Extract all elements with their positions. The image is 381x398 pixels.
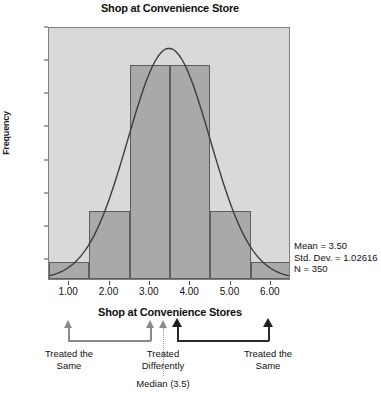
x-tick-label-1: 1.00	[48, 286, 88, 297]
median-label: Median (3.5)	[123, 378, 203, 389]
x-tick-label-4: 4.00	[169, 286, 209, 297]
annotation-label-left-line2: Same	[29, 360, 109, 372]
stat-n: N = 350	[294, 263, 378, 275]
bracket-stem-right-end	[268, 326, 270, 341]
annotation-label-right-line2: Same	[228, 360, 308, 372]
stat-std-dev: Std. Dev. = 1.02616	[294, 252, 378, 264]
chart-figure: Shop at Convenience Store Frequency 140 …	[0, 0, 381, 398]
x-tick-mark	[109, 281, 110, 285]
x-tick-mark	[270, 281, 271, 285]
normal-distribution-curve	[49, 28, 289, 279]
bracket-stem-right-start	[177, 326, 179, 341]
x-axis-title: Shop at Convenience Stores	[0, 306, 340, 318]
annotation-label-middle-line1: Treated	[123, 348, 203, 360]
stat-mean: Mean = 3.50	[294, 240, 378, 252]
x-tick-mark	[189, 281, 190, 285]
plot-area	[48, 27, 290, 280]
bracket-line-right	[177, 340, 269, 342]
annotation-label-right: Treated the Same	[228, 348, 308, 371]
arrow-head-left-start-icon	[64, 320, 72, 328]
x-tick-label-5: 5.00	[210, 286, 250, 297]
arrow-head-left-end-icon	[146, 320, 154, 328]
annotation-label-middle: Treated Differently	[123, 348, 203, 371]
x-tick-label-6: 6.00	[250, 286, 290, 297]
annotation-label-middle-line2: Differently	[123, 360, 203, 372]
annotation-label-left: Treated the Same	[29, 348, 109, 371]
annotation-diagram: Treated the Same Treated Differently Tre…	[0, 318, 381, 398]
x-tick-mark	[230, 281, 231, 285]
arrow-head-median-icon	[159, 320, 167, 328]
annotation-label-left-line1: Treated the	[29, 348, 109, 360]
bracket-line-left	[68, 340, 151, 342]
x-tick-mark	[68, 281, 69, 285]
x-tick-label-2: 2.00	[89, 286, 129, 297]
y-axis-title: Frequency	[1, 111, 11, 155]
arrow-head-right-start-icon	[172, 318, 182, 327]
arrow-head-right-end-icon	[263, 318, 273, 327]
x-tick-mark	[149, 281, 150, 285]
annotation-label-right-line1: Treated the	[228, 348, 308, 360]
chart-title: Shop at Convenience Store	[0, 2, 340, 14]
statistics-box: Mean = 3.50 Std. Dev. = 1.02616 N = 350	[294, 240, 378, 275]
x-tick-label-3: 3.00	[129, 286, 169, 297]
bracket-stem-left-end	[150, 327, 152, 341]
bracket-stem-left-start	[68, 327, 70, 341]
